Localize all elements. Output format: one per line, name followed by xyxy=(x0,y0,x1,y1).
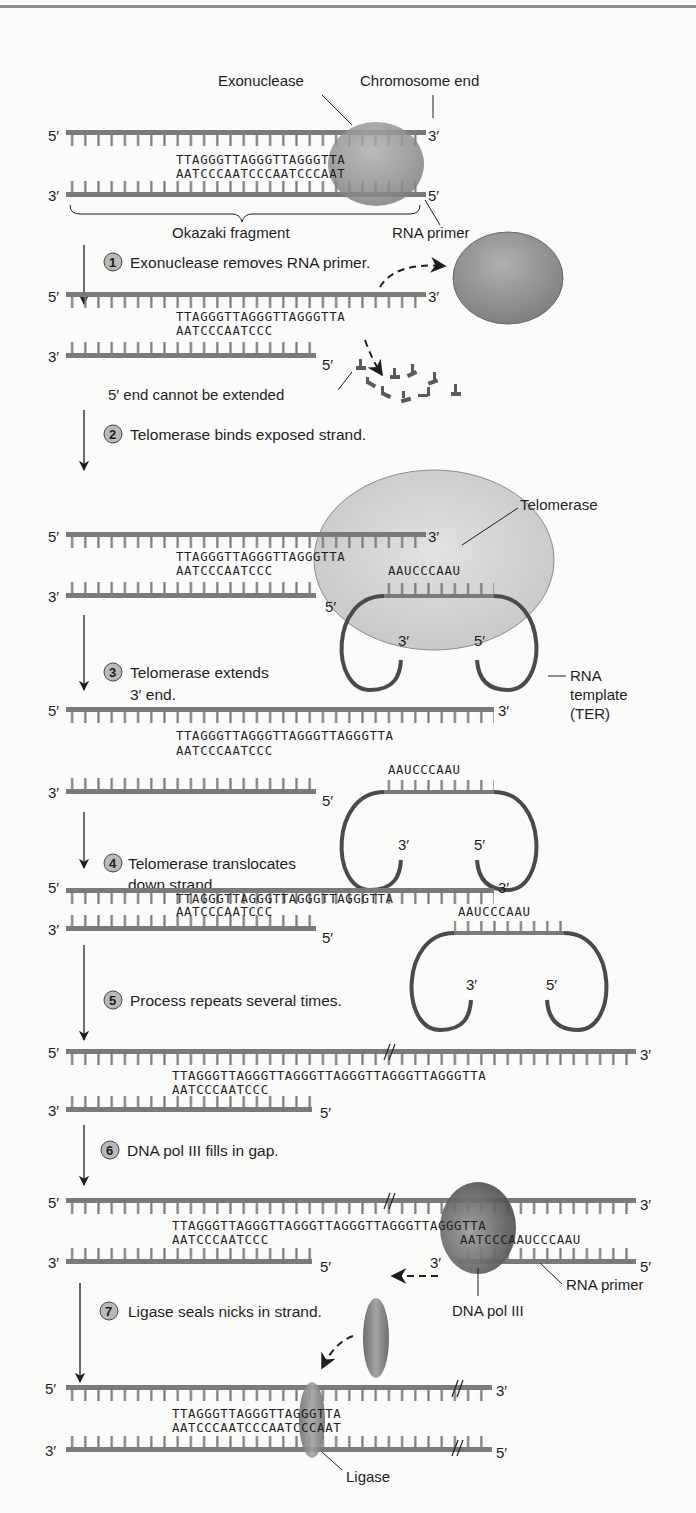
svg-text:3′: 3′ xyxy=(498,879,509,896)
telomerase-shape xyxy=(314,470,554,650)
svg-text:Telomerase binds exposed stran: Telomerase binds exposed strand. xyxy=(130,426,366,443)
svg-text:5′: 5′ xyxy=(546,976,557,993)
svg-text:3′: 3′ xyxy=(48,921,59,938)
step-2: 2 Telomerase binds exposed strand. xyxy=(104,425,366,443)
step-6: 6 DNA pol III fills in gap. xyxy=(101,1141,279,1159)
row-0-initial: TTAGGGTTAGGGTTAGGGTTA AATCCCAATCCCAATCCC… xyxy=(48,72,479,241)
telomerase-label: Telomerase xyxy=(520,496,598,513)
svg-text:3′: 3′ xyxy=(48,348,59,365)
svg-text:template: template xyxy=(570,686,628,703)
rna-primer-label: RNA primer xyxy=(392,224,470,241)
svg-text:AATCCCAATCCCAATCCCAAT: AATCCCAATCCCAATCCCAAT xyxy=(176,166,345,181)
okazaki-fragment-label: Okazaki fragment xyxy=(172,224,290,241)
svg-text:5′: 5′ xyxy=(48,127,59,144)
svg-text:AATCCCAATCCCAATCCCAAT: AATCCCAATCCCAATCCCAAT xyxy=(172,1420,341,1435)
svg-text:TTAGGGTTAGGGTTAGGGTTA: TTAGGGTTAGGGTTAGGGTTA xyxy=(176,152,345,167)
svg-text:3′: 3′ xyxy=(498,702,509,719)
svg-text:5′: 5′ xyxy=(48,288,59,305)
step-7: 7 Ligase seals nicks in strand. xyxy=(100,1298,389,1378)
dna-pol-iii-label: DNA pol III xyxy=(452,1302,524,1319)
row-5-repeated: TTAGGGTTAGGGTTAGGGTTAGGGTTAGGGTTAGGGTTA … xyxy=(48,1044,651,1121)
svg-text:AATCCCAATCCC: AATCCCAATCCC xyxy=(172,1232,269,1247)
svg-text:AATCCCAATCCC: AATCCCAATCCC xyxy=(176,743,273,758)
released-exonuclease xyxy=(453,232,563,324)
svg-text:3′: 3′ xyxy=(466,976,477,993)
svg-text:5′: 5′ xyxy=(325,598,336,615)
svg-text:6: 6 xyxy=(106,1143,113,1158)
svg-text:5′: 5′ xyxy=(48,528,59,545)
row-7-ligated: TTAGGGTTAGGGTTAGGGTTA AATCCCAATCCCAATCCC… xyxy=(45,1380,507,1485)
svg-text:TTAGGGTTAGGGTTAGGGTTAGGGTTA: TTAGGGTTAGGGTTAGGGTTAGGGTTA xyxy=(176,728,394,743)
svg-text:3′: 3′ xyxy=(428,528,439,545)
svg-text:5′: 5′ xyxy=(48,879,59,896)
svg-text:5′: 5′ xyxy=(48,1194,59,1211)
svg-text:TTAGGGTTAGGGTTAGGGTTA: TTAGGGTTAGGGTTAGGGTTA xyxy=(176,309,345,324)
svg-text:5′: 5′ xyxy=(640,1258,651,1275)
svg-text:4: 4 xyxy=(109,856,117,871)
svg-text:5′: 5′ xyxy=(474,836,485,853)
svg-text:2: 2 xyxy=(109,427,116,442)
ligase-free xyxy=(363,1298,389,1378)
svg-text:3′: 3′ xyxy=(428,288,439,305)
svg-text:AATCCCAATCCC: AATCCCAATCCC xyxy=(176,904,273,919)
svg-text:Ligase seals nicks in strand.: Ligase seals nicks in strand. xyxy=(128,1303,322,1320)
svg-text:Exonuclease removes RNA primer: Exonuclease removes RNA primer. xyxy=(130,254,370,271)
svg-text:DNA pol III fills in gap.: DNA pol III fills in gap. xyxy=(127,1142,279,1159)
svg-text:AATCCCAATCCC: AATCCCAATCCC xyxy=(176,563,273,578)
step-3: 3 Telomerase extends 3′ end. xyxy=(104,663,269,703)
rna-primer-label-2: RNA primer xyxy=(566,1276,644,1293)
svg-text:5′: 5′ xyxy=(320,1258,331,1275)
svg-text:5′: 5′ xyxy=(474,632,485,649)
svg-text:(TER): (TER) xyxy=(570,705,610,722)
svg-text:3′: 3′ xyxy=(48,1254,59,1271)
svg-text:5′: 5′ xyxy=(496,1444,507,1461)
svg-text:Telomerase translocates: Telomerase translocates xyxy=(128,855,296,872)
svg-text:3′: 3′ xyxy=(496,1382,507,1399)
svg-text:5′: 5′ xyxy=(45,1380,56,1397)
svg-text:AATCCCAATCCC: AATCCCAATCCC xyxy=(172,1082,269,1097)
svg-text:TTAGGGTTAGGGTTAGGGTTA: TTAGGGTTAGGGTTAGGGTTA xyxy=(176,549,345,564)
svg-text:3: 3 xyxy=(109,665,116,680)
step-4: 4 Telomerase translocates down strand. xyxy=(104,854,296,893)
five-end-cannot-extend-label: 5′ end cannot be extended xyxy=(108,386,284,403)
step-1: 1 Exonuclease removes RNA primer. xyxy=(104,253,370,271)
chromosome-end-label: Chromosome end xyxy=(360,72,479,89)
degraded-nucleotides xyxy=(356,359,461,403)
svg-text:1: 1 xyxy=(109,255,116,270)
step-5: 5 Process repeats several times. xyxy=(104,991,342,1009)
svg-text:AATCCCAAUCCCAAU: AATCCCAAUCCCAAU xyxy=(460,1232,581,1247)
svg-text:TTAGGGTTAGGGTTAGGGTTAGGGTTAGGG: TTAGGGTTAGGGTTAGGGTTAGGGTTAGGGTTAGGGTTA xyxy=(172,1218,486,1233)
rna-template-label: RNA xyxy=(570,667,602,684)
svg-text:5′: 5′ xyxy=(322,356,333,373)
svg-text:7: 7 xyxy=(105,1304,112,1319)
svg-text:5′: 5′ xyxy=(48,702,59,719)
svg-text:5: 5 xyxy=(109,993,116,1008)
svg-text:AAUCCCAAU: AAUCCCAAU xyxy=(388,762,461,777)
svg-text:5′: 5′ xyxy=(320,1104,331,1121)
svg-text:5′: 5′ xyxy=(322,929,333,946)
svg-text:Process repeats several times.: Process repeats several times. xyxy=(130,992,342,1009)
row-2-telomerase-bound: TTAGGGTTAGGGTTAGGGTTA AATCCCAATCCC AAUCC… xyxy=(48,470,628,722)
svg-text:AAUCCCAAU: AAUCCCAAU xyxy=(458,904,531,919)
svg-text:Telomerase extends: Telomerase extends xyxy=(130,664,269,681)
svg-text:3′: 3′ xyxy=(430,1254,441,1271)
ligase-label: Ligase xyxy=(346,1468,390,1485)
svg-text:3′: 3′ xyxy=(398,836,409,853)
svg-text:5′: 5′ xyxy=(428,187,439,204)
svg-text:5′: 5′ xyxy=(48,1044,59,1061)
row-6-dna-pol-iii: TTAGGGTTAGGGTTAGGGTTAGGGTTAGGGTTAGGGTTA … xyxy=(48,1182,651,1319)
svg-text:3′: 3′ xyxy=(428,127,439,144)
svg-text:AAUCCCAAU: AAUCCCAAU xyxy=(388,563,461,578)
svg-text:AATCCCAATCCC: AATCCCAATCCC xyxy=(176,323,273,338)
svg-text:3′: 3′ xyxy=(48,784,59,801)
svg-text:3′: 3′ xyxy=(640,1196,651,1213)
telomerase-diagram: TTAGGGTTAGGGTTAGGGTTA AATCCCAATCCCAATCCC… xyxy=(0,0,696,1513)
svg-text:TTAGGGTTAGGGTTAGGGTTAGGGTTAGGG: TTAGGGTTAGGGTTAGGGTTAGGGTTAGGGTTAGGGTTA xyxy=(172,1068,486,1083)
svg-text:3′: 3′ xyxy=(48,588,59,605)
svg-text:5′: 5′ xyxy=(322,792,333,809)
svg-text:3′: 3′ xyxy=(48,1102,59,1119)
svg-text:3′: 3′ xyxy=(640,1046,651,1063)
svg-text:3′: 3′ xyxy=(398,632,409,649)
exonuclease-label: Exonuclease xyxy=(218,72,304,89)
svg-text:3′ end.: 3′ end. xyxy=(130,686,176,703)
